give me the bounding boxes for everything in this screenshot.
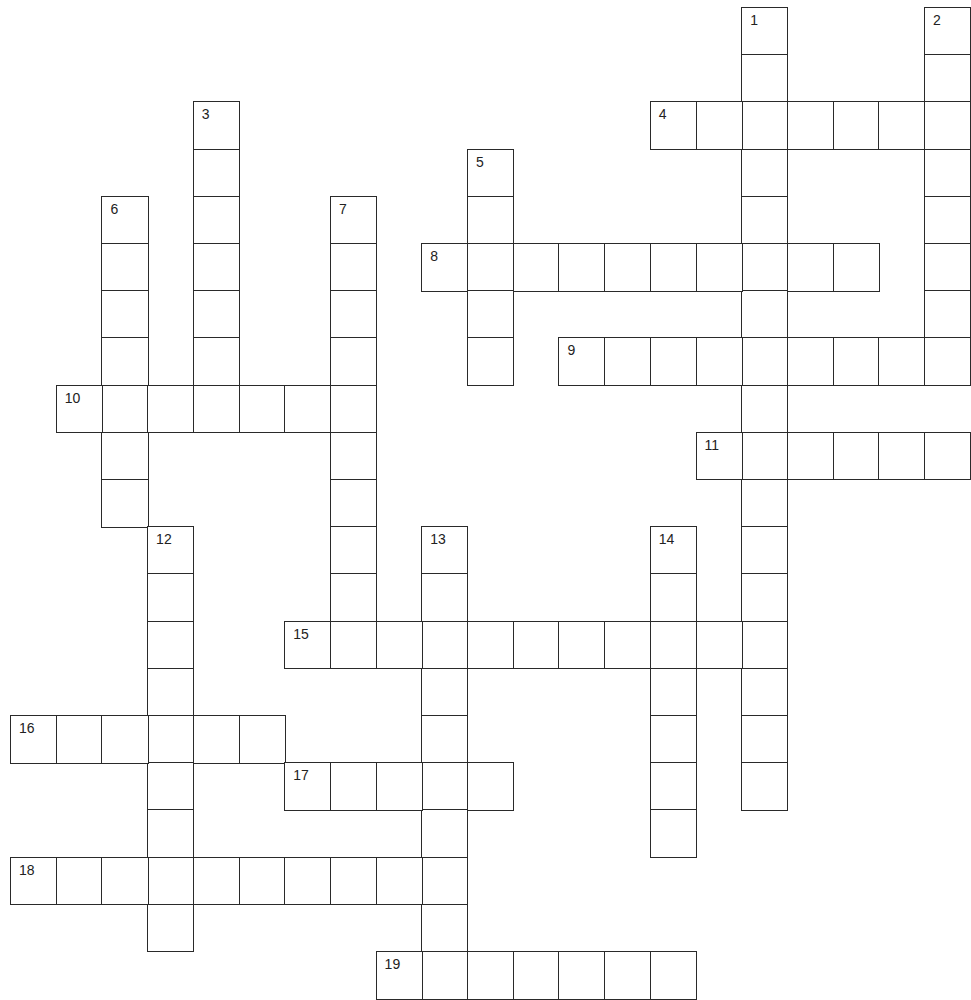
crossword-cell[interactable] [741, 54, 788, 103]
crossword-cell[interactable] [741, 479, 788, 528]
crossword-cell[interactable] [147, 809, 194, 858]
crossword-cell[interactable]: 14 [650, 526, 697, 575]
crossword-cell[interactable] [56, 857, 103, 906]
crossword-cell[interactable] [193, 290, 240, 339]
crossword-cell[interactable] [147, 621, 194, 670]
crossword-cell[interactable] [330, 526, 377, 575]
crossword-cell[interactable] [833, 101, 880, 150]
crossword-cell[interactable]: 9 [558, 337, 605, 386]
crossword-cell[interactable] [878, 101, 925, 150]
crossword-cell[interactable] [101, 385, 148, 434]
crossword-cell[interactable] [924, 54, 971, 103]
crossword-cell[interactable] [193, 196, 240, 245]
crossword-cell[interactable] [741, 526, 788, 575]
crossword-cell[interactable] [787, 101, 834, 150]
crossword-cell[interactable] [376, 762, 423, 811]
crossword-cell[interactable]: 7 [330, 196, 377, 245]
crossword-cell[interactable] [284, 385, 331, 434]
crossword-cell[interactable]: 16 [10, 715, 57, 764]
crossword-cell[interactable]: 18 [10, 857, 57, 906]
crossword-cell[interactable] [924, 432, 971, 481]
crossword-cell[interactable]: 12 [147, 526, 194, 575]
crossword-cell[interactable] [330, 385, 377, 434]
crossword-cell[interactable] [330, 243, 377, 292]
crossword-cell[interactable] [650, 668, 697, 717]
crossword-cell[interactable] [833, 337, 880, 386]
crossword-cell[interactable] [741, 432, 788, 481]
crossword-cell[interactable] [467, 762, 514, 811]
crossword-cell[interactable] [741, 337, 788, 386]
crossword-cell[interactable] [467, 243, 514, 292]
crossword-cell[interactable] [741, 715, 788, 764]
crossword-cell[interactable] [513, 621, 560, 670]
crossword-cell[interactable]: 5 [467, 149, 514, 198]
crossword-cell[interactable] [101, 243, 148, 292]
crossword-cell[interactable] [330, 621, 377, 670]
crossword-cell[interactable]: 2 [924, 7, 971, 56]
crossword-cell[interactable] [467, 621, 514, 670]
crossword-cell[interactable] [467, 951, 514, 1000]
crossword-cell[interactable] [330, 573, 377, 622]
crossword-cell[interactable] [833, 243, 880, 292]
crossword-cell[interactable] [741, 196, 788, 245]
crossword-cell[interactable]: 11 [696, 432, 743, 481]
crossword-cell[interactable] [376, 621, 423, 670]
crossword-cell[interactable]: 1 [741, 7, 788, 56]
crossword-cell[interactable] [467, 290, 514, 339]
crossword-cell[interactable] [878, 337, 925, 386]
crossword-cell[interactable] [421, 621, 468, 670]
crossword-cell[interactable] [513, 951, 560, 1000]
crossword-cell[interactable] [284, 857, 331, 906]
crossword-cell[interactable] [741, 290, 788, 339]
crossword-cell[interactable] [878, 432, 925, 481]
crossword-cell[interactable] [741, 762, 788, 811]
crossword-cell[interactable] [330, 432, 377, 481]
crossword-cell[interactable] [193, 715, 240, 764]
crossword-cell[interactable] [650, 337, 697, 386]
crossword-cell[interactable] [193, 337, 240, 386]
crossword-cell[interactable] [741, 668, 788, 717]
crossword-cell[interactable] [101, 290, 148, 339]
crossword-cell[interactable] [558, 951, 605, 1000]
crossword-cell[interactable] [650, 573, 697, 622]
crossword-cell[interactable] [924, 243, 971, 292]
crossword-cell[interactable] [513, 243, 560, 292]
crossword-cell[interactable] [330, 857, 377, 906]
crossword-cell[interactable] [101, 432, 148, 481]
crossword-cell[interactable] [650, 715, 697, 764]
crossword-cell[interactable] [741, 243, 788, 292]
crossword-cell[interactable] [741, 149, 788, 198]
crossword-cell[interactable]: 19 [376, 951, 423, 1000]
crossword-cell[interactable] [696, 337, 743, 386]
crossword-cell[interactable] [193, 243, 240, 292]
crossword-cell[interactable] [696, 621, 743, 670]
crossword-cell[interactable] [924, 101, 971, 150]
crossword-cell[interactable]: 6 [101, 196, 148, 245]
crossword-cell[interactable] [696, 101, 743, 150]
crossword-cell[interactable] [421, 668, 468, 717]
crossword-cell[interactable] [101, 715, 148, 764]
crossword-cell[interactable] [650, 762, 697, 811]
crossword-cell[interactable]: 4 [650, 101, 697, 150]
crossword-cell[interactable] [330, 479, 377, 528]
crossword-cell[interactable] [650, 243, 697, 292]
crossword-cell[interactable] [330, 290, 377, 339]
crossword-cell[interactable] [741, 101, 788, 150]
crossword-cell[interactable] [147, 385, 194, 434]
crossword-cell[interactable] [193, 149, 240, 198]
crossword-cell[interactable] [741, 573, 788, 622]
crossword-cell[interactable] [421, 857, 468, 906]
crossword-cell[interactable] [650, 809, 697, 858]
crossword-cell[interactable] [56, 715, 103, 764]
crossword-cell[interactable] [147, 762, 194, 811]
crossword-cell[interactable]: 15 [284, 621, 331, 670]
crossword-cell[interactable] [924, 337, 971, 386]
crossword-cell[interactable] [147, 668, 194, 717]
crossword-cell[interactable] [193, 385, 240, 434]
crossword-cell[interactable] [604, 243, 651, 292]
crossword-cell[interactable] [787, 243, 834, 292]
crossword-cell[interactable] [421, 951, 468, 1000]
crossword-cell[interactable] [924, 196, 971, 245]
crossword-cell[interactable] [924, 149, 971, 198]
crossword-cell[interactable] [101, 857, 148, 906]
